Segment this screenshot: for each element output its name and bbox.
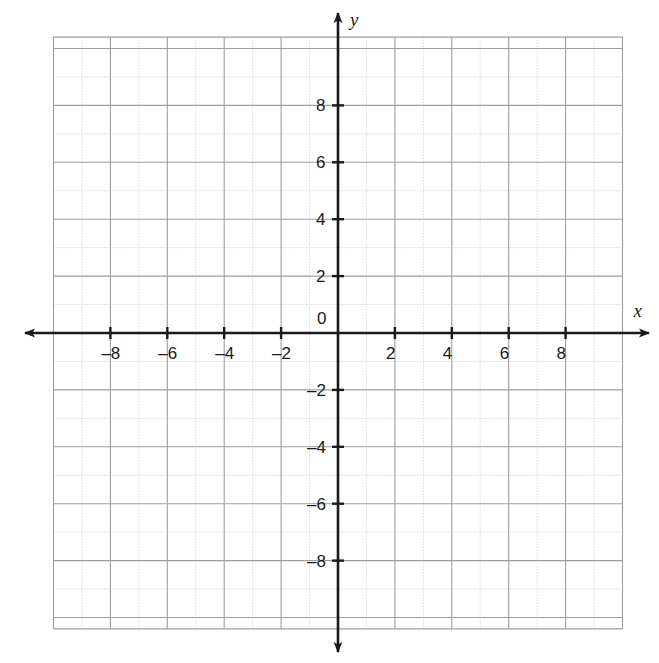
origin-label: 0 — [317, 310, 326, 327]
x-tick-label: 8 — [557, 345, 566, 362]
x-tick-label: –6 — [158, 345, 177, 362]
axis-lines — [25, 13, 649, 652]
y-tick-label: –2 — [307, 382, 326, 399]
x-tick-label: 6 — [500, 345, 509, 362]
x-tick-label: 4 — [443, 345, 452, 362]
x-tick-label: –8 — [101, 345, 120, 362]
y-tick-label: 8 — [316, 97, 325, 114]
x-axis-label: x — [634, 301, 642, 320]
coordinate-plane-figure: x y 0 –8–6–4–22468 8642–2–4–6–8 — [0, 0, 659, 663]
x-tick-label: –2 — [272, 345, 291, 362]
coordinate-plane-canvas — [0, 0, 659, 663]
y-axis-label: y — [350, 10, 358, 29]
y-tick-label: –8 — [307, 553, 326, 570]
y-tick-label: –4 — [307, 439, 326, 456]
y-tick-label: 4 — [316, 211, 325, 228]
y-tick-label: –6 — [307, 496, 326, 513]
x-tick-label: 2 — [386, 345, 395, 362]
y-tick-label: 6 — [316, 154, 325, 171]
x-tick-label: –4 — [215, 345, 234, 362]
y-tick-label: 2 — [316, 268, 325, 285]
